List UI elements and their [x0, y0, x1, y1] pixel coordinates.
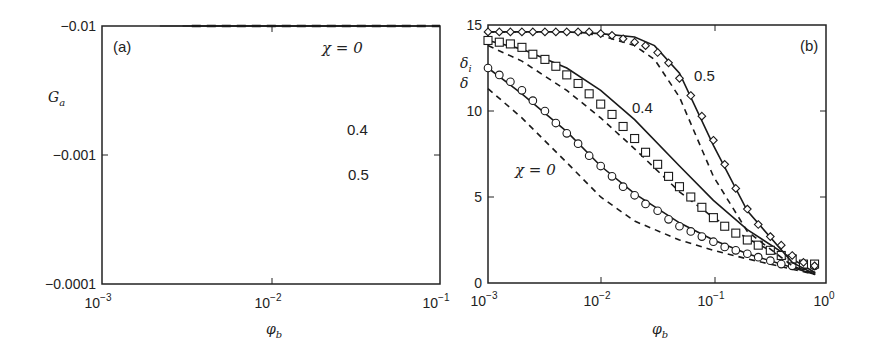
circle-marker — [597, 162, 605, 170]
circle-marker — [767, 257, 775, 265]
y-tick-label: −0.01 — [61, 18, 97, 34]
y-tick-label: −0.0001 — [45, 276, 96, 292]
y-tick-label: 10 — [466, 103, 482, 119]
diamond-marker — [676, 75, 684, 83]
x-tick-label: 10−1 — [423, 292, 450, 311]
circle-marker — [619, 183, 627, 191]
square-marker — [631, 135, 639, 143]
x-tick-label: 10−3 — [85, 292, 112, 311]
square-marker — [743, 236, 751, 244]
circle-marker — [676, 222, 684, 230]
square-marker — [687, 193, 695, 201]
y-tick-label: 0 — [474, 275, 482, 291]
annotation-chi-0.4: 0.4 — [632, 99, 653, 116]
circle-marker — [574, 140, 582, 148]
square-marker — [709, 214, 717, 222]
y-axis-label-b-bottom: δ — [460, 75, 468, 91]
square-marker — [529, 50, 537, 58]
x-tick-label: 10−3 — [471, 290, 498, 309]
series-line — [488, 41, 815, 273]
square-marker — [506, 40, 514, 48]
circle-marker — [698, 233, 706, 241]
square-marker — [665, 172, 673, 180]
panel-label-a: (a) — [113, 38, 131, 55]
circle-marker — [529, 97, 537, 105]
diamond-marker — [484, 28, 492, 36]
diamond-marker — [552, 28, 560, 36]
y-axis-label-a: Ga — [48, 89, 65, 108]
circle-marker — [541, 107, 549, 115]
circle-marker — [563, 130, 571, 138]
square-marker — [541, 55, 549, 63]
square-marker — [585, 90, 593, 98]
diamond-marker — [665, 59, 673, 67]
x-tick-label: 100 — [813, 290, 835, 309]
diamond-marker — [563, 28, 571, 36]
diamond-marker — [496, 28, 504, 36]
panel-b: 15 10 5 0 10−3 10−2 10−1 100 δi δ φb (b)… — [460, 17, 835, 340]
circle-marker — [585, 152, 593, 160]
x-tick-label: 10−1 — [698, 290, 725, 309]
circle-marker — [777, 260, 785, 268]
series-line — [488, 46, 815, 273]
square-marker — [619, 122, 627, 130]
square-marker — [721, 222, 729, 230]
x-axis-label-a: φb — [266, 321, 282, 340]
diamond-marker — [732, 185, 740, 193]
square-marker — [675, 183, 683, 191]
diamond-marker — [541, 28, 549, 36]
circle-marker — [642, 200, 650, 208]
circle-marker — [721, 243, 729, 251]
square-marker — [552, 62, 560, 70]
square-marker — [495, 38, 503, 46]
figure-canvas: −0.01 −0.001 −0.0001 10−3 10−2 10−1 Ga φ… — [0, 0, 872, 352]
circle-marker — [687, 228, 695, 236]
circle-marker — [608, 173, 616, 181]
circle-marker — [496, 71, 504, 79]
panel-label-b: (b) — [800, 37, 818, 54]
annotation-chi-0: χ = 0 — [514, 161, 556, 179]
circle-marker — [710, 238, 718, 246]
series-line — [488, 32, 815, 275]
annotation-chi-0: χ = 0 — [321, 39, 363, 57]
circle-marker — [507, 78, 515, 86]
annotation-chi-0.5: 0.5 — [694, 67, 715, 84]
circle-marker — [552, 119, 560, 127]
annotation-chi-0.4: 0.4 — [347, 121, 368, 138]
y-tick-label: 15 — [466, 17, 482, 33]
circle-marker — [654, 207, 662, 215]
square-marker — [654, 160, 662, 168]
series-line — [488, 32, 815, 275]
square-marker — [608, 110, 616, 118]
square-marker — [563, 71, 571, 79]
x-tick-label: 10−2 — [255, 292, 282, 311]
circle-marker — [484, 64, 492, 72]
square-marker — [574, 79, 582, 87]
square-marker — [642, 148, 650, 156]
square-marker — [484, 36, 492, 44]
circle-marker — [631, 191, 639, 199]
square-marker — [732, 229, 740, 237]
annotation-chi-0.5: 0.5 — [348, 166, 369, 183]
y-tick-label: −0.001 — [53, 147, 96, 163]
diamond-marker — [529, 28, 537, 36]
plot-frame-a — [102, 26, 440, 284]
circle-marker — [744, 250, 752, 258]
y-axis-label-b-top: δi — [460, 55, 472, 74]
circle-marker — [754, 253, 762, 261]
diamond-marker — [574, 28, 582, 36]
panel-a: −0.01 −0.001 −0.0001 10−3 10−2 10−1 Ga φ… — [45, 18, 450, 340]
diamond-marker — [507, 28, 515, 36]
diamond-marker — [654, 49, 662, 57]
x-tick-label: 10−2 — [584, 290, 611, 309]
square-marker — [698, 203, 706, 211]
x-axis-label-b: φb — [652, 321, 668, 340]
circle-marker — [518, 87, 526, 95]
square-marker — [597, 100, 605, 108]
square-marker — [518, 43, 526, 51]
y-tick-label: 5 — [474, 189, 482, 205]
diamond-marker — [710, 136, 718, 144]
circle-marker — [665, 216, 673, 224]
circle-marker — [732, 247, 740, 255]
series-group-b — [484, 28, 819, 274]
